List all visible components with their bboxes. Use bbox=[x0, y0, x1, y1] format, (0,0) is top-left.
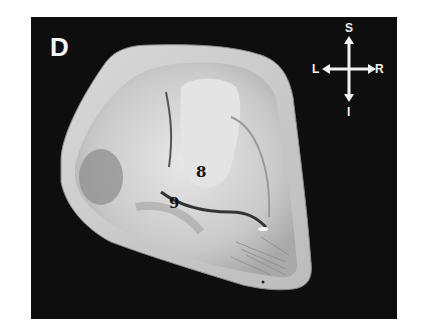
structure-label-9: 9 bbox=[169, 196, 179, 211]
compass-inferior-label: I bbox=[347, 106, 350, 118]
structure-label-8: 8 bbox=[196, 165, 206, 180]
compass-arrows-icon bbox=[312, 22, 382, 118]
compass-right-label: R bbox=[375, 63, 384, 75]
orientation-compass: S L R I bbox=[312, 22, 382, 118]
compass-superior-label: S bbox=[345, 22, 353, 34]
anatomical-figure: D 8 9 S L R I bbox=[31, 17, 397, 319]
compass-left-label: L bbox=[312, 63, 319, 75]
panel-letter: D bbox=[50, 34, 69, 60]
